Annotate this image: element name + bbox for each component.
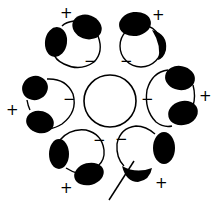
plus-sign: + bbox=[60, 4, 73, 22]
unit-top-right: + − bbox=[117, 6, 166, 70]
unit-left: + − bbox=[6, 72, 76, 136]
unit-bottom-right: + − bbox=[109, 126, 175, 200]
minus-sign: − bbox=[93, 131, 106, 149]
lobe-dark bbox=[43, 26, 69, 59]
unit-ring bbox=[27, 100, 30, 110]
lobe-dark bbox=[19, 72, 52, 103]
plus-sign: + bbox=[152, 6, 165, 24]
lobe-dark bbox=[117, 10, 152, 38]
lobe-dark bbox=[72, 159, 107, 188]
minus-sign: − bbox=[115, 130, 128, 148]
orbital-diagram: + − + − + − + − + − bbox=[0, 0, 215, 205]
minus-sign: − bbox=[84, 52, 97, 70]
lobe-dark bbox=[163, 64, 197, 93]
lobe-dark bbox=[69, 11, 105, 44]
lobe-dark bbox=[153, 132, 175, 164]
unit-right: + − bbox=[141, 64, 212, 129]
plus-sign: + bbox=[155, 174, 168, 192]
center-circle bbox=[84, 75, 136, 127]
minus-sign: − bbox=[63, 90, 76, 108]
unit-top-left: + − bbox=[43, 4, 105, 70]
minus-sign: − bbox=[141, 90, 154, 108]
minus-sign: − bbox=[120, 52, 133, 70]
lobe-dark bbox=[165, 98, 200, 129]
plus-sign: + bbox=[6, 101, 19, 119]
pointer-line bbox=[109, 161, 134, 200]
lobe-dark bbox=[49, 139, 69, 169]
lobe-dark bbox=[24, 108, 57, 136]
plus-sign: + bbox=[199, 87, 212, 105]
unit-bottom-left: + − bbox=[49, 130, 106, 197]
lobe-shadow bbox=[152, 30, 166, 60]
plus-sign: + bbox=[60, 179, 73, 197]
unit-ring bbox=[193, 85, 195, 106]
